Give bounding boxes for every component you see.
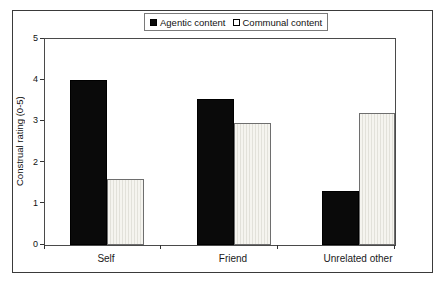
bar-communal-self [107,179,144,245]
bar-communal-unrelated-other [359,113,395,245]
y-tick-label-2: 2 [22,157,38,167]
plot-area [44,38,396,246]
y-tick-label-3: 3 [22,115,38,125]
x-tick-mark-0 [44,245,45,249]
y-tick-label-5: 5 [22,33,38,43]
bar-agentic-unrelated-other [322,191,359,245]
y-tick-label-4: 4 [22,74,38,84]
y-tick-mark-3 [40,120,44,121]
y-tick-label-0: 0 [22,239,38,249]
bar-agentic-self [70,80,107,245]
bar-agentic-friend [197,99,234,245]
y-tick-mark-1 [40,202,44,203]
legend-label-agentic: Agentic content [160,17,226,28]
agentic-swatch-icon [150,19,157,26]
communal-swatch-icon [233,19,240,26]
bar-communal-friend [234,123,271,245]
y-tick-label-1: 1 [22,198,38,208]
chart-figure: Agentic content Communal content Constru… [12,10,433,273]
y-axis-title: Construal rating (0-5) [14,38,28,244]
x-category-label-self: Self [51,253,161,264]
y-tick-mark-2 [40,161,44,162]
x-tick-mark-1 [160,245,161,249]
legend: Agentic content Communal content [144,13,328,31]
x-tick-mark-2 [277,245,278,249]
legend-item-agentic: Agentic content [150,17,226,28]
legend-item-communal: Communal content [233,17,323,28]
y-tick-mark-4 [40,79,44,80]
x-tick-mark-3 [394,245,395,249]
legend-label-communal: Communal content [243,17,323,28]
x-category-label-unrelated-other: Unrelated other [303,253,413,264]
y-tick-mark-5 [40,38,44,39]
x-category-label-friend: Friend [178,253,288,264]
